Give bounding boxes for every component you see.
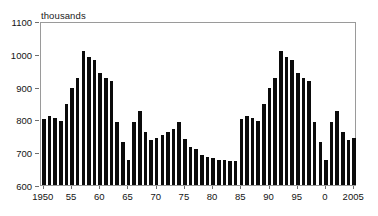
- x-tick-label: 55: [66, 191, 77, 202]
- x-tick-mark: [127, 186, 128, 189]
- y-tick-mark: [35, 55, 39, 56]
- y-tick-mark: [35, 186, 39, 187]
- bars-layer: [41, 23, 355, 185]
- x-tick-mark: [99, 186, 100, 189]
- bar-chart: thousands 60070080090010001100 195055606…: [0, 0, 378, 216]
- x-tick-label: 70: [150, 191, 161, 202]
- y-tick-mark: [35, 88, 39, 89]
- x-tick-mark: [325, 186, 326, 189]
- y-tick-label: 700: [16, 148, 32, 159]
- x-tick-mark: [156, 186, 157, 189]
- y-tick-label: 800: [16, 115, 32, 126]
- bar: [351, 138, 357, 185]
- x-tick-mark: [71, 186, 72, 189]
- x-tick-mark: [240, 186, 241, 189]
- x-tick-label: 75: [179, 191, 190, 202]
- y-tick-label: 1000: [11, 49, 32, 60]
- y-tick-label: 600: [16, 181, 32, 192]
- x-tick-label: 1950: [32, 191, 53, 202]
- x-tick-label: 0: [322, 191, 327, 202]
- y-tick-label: 1100: [12, 17, 32, 28]
- x-tick-label: 95: [291, 191, 302, 202]
- x-tick-mark: [212, 186, 213, 189]
- x-tick-mark: [353, 186, 354, 189]
- x-axis: 195055606570758085909502005: [40, 186, 356, 216]
- x-tick-label: 2005: [343, 191, 364, 202]
- units-label: thousands: [41, 10, 86, 21]
- y-axis: 60070080090010001100: [0, 0, 40, 216]
- x-tick-mark: [269, 186, 270, 189]
- y-tick-mark: [35, 120, 39, 121]
- y-tick-mark: [35, 153, 39, 154]
- x-tick-label: 85: [235, 191, 246, 202]
- x-tick-label: 80: [207, 191, 218, 202]
- y-tick-label: 900: [16, 82, 32, 93]
- x-tick-label: 65: [122, 191, 133, 202]
- x-tick-label: 60: [94, 191, 105, 202]
- x-tick-mark: [43, 186, 44, 189]
- plot-area: [40, 22, 356, 186]
- x-tick-mark: [297, 186, 298, 189]
- x-tick-label: 90: [263, 191, 274, 202]
- y-tick-mark: [35, 22, 39, 23]
- x-tick-mark: [184, 186, 185, 189]
